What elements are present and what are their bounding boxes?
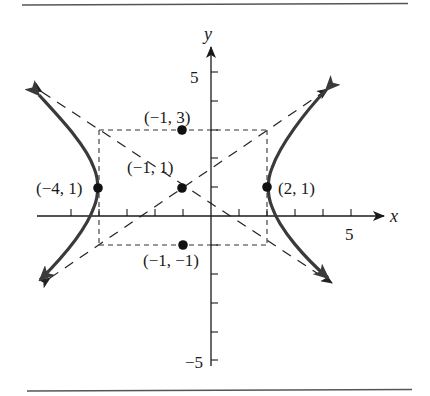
label-point-center: (−1, 1) — [127, 158, 173, 177]
label-point-bottom: (−1, −1) — [143, 251, 199, 270]
label-point-top: (−1, 3) — [144, 108, 190, 127]
y-axis-label: y — [202, 24, 212, 44]
point-bottom — [178, 240, 188, 250]
top-rule — [22, 4, 408, 6]
tick-label-ym5: −5 — [185, 353, 203, 372]
point-center — [177, 183, 187, 193]
point-right-vertex — [262, 182, 272, 192]
hyperbola-figure: y x 5 −5 5 (−1, 3) (−1, 1) (−4, 1) (2, 1… — [0, 0, 430, 396]
point-left-vertex — [93, 183, 103, 193]
bottom-rule — [27, 390, 412, 392]
x-axis-label: x — [389, 206, 398, 226]
tick-label-y5: 5 — [190, 68, 199, 87]
label-point-right: (2, 1) — [278, 179, 315, 198]
tick-label-x5: 5 — [345, 225, 354, 244]
label-point-left: (−4, 1) — [36, 179, 82, 198]
